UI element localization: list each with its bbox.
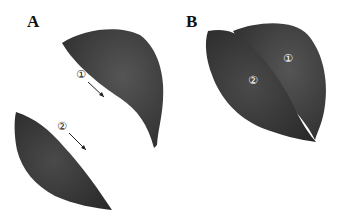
svg-text:②: ② bbox=[57, 120, 67, 133]
leaf-illustration: ① ② ① ② bbox=[0, 0, 341, 221]
figure: A B ① ② ① ② bbox=[0, 0, 341, 221]
svg-text:①: ① bbox=[283, 52, 293, 65]
svg-text:①: ① bbox=[76, 68, 86, 81]
leaf-joined-b: ① ② bbox=[206, 23, 326, 142]
leaf-half-2-a: ② bbox=[15, 112, 112, 210]
leaf-half-1-a: ① bbox=[62, 29, 163, 148]
svg-text:②: ② bbox=[248, 74, 258, 87]
